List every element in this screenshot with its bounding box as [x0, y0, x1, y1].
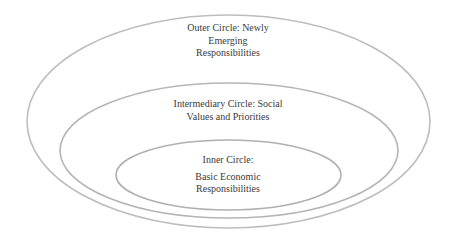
inner-circle-label-line-3: Responsibilities: [128, 183, 328, 196]
outer-circle-label-line-2: Emerging: [128, 35, 328, 48]
outer-circle-label: Outer Circle: Newly Emerging Responsibil…: [128, 22, 328, 60]
outer-circle-label-line-3: Responsibilities: [128, 47, 328, 60]
inner-circle-label-line-2: Basic Economic: [128, 171, 328, 184]
intermediary-circle-label-line-2: Values and Priorities: [128, 111, 328, 124]
intermediary-circle-label-line-1: Intermediary Circle: Social: [128, 98, 328, 111]
intermediary-circle-label: Intermediary Circle: Social Values and P…: [128, 98, 328, 123]
inner-circle-label: Inner Circle: Basic Economic Responsibil…: [128, 154, 328, 196]
outer-circle-label-line-1: Outer Circle: Newly: [128, 22, 328, 35]
inner-circle-label-line-1: Inner Circle:: [128, 154, 328, 167]
